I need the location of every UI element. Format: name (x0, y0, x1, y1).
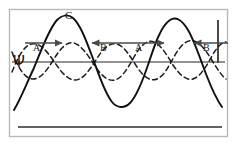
label-wave-a-second: A (135, 43, 142, 53)
wave-superposition-figure: C A B A B Ψ (0, 0, 238, 146)
wave-diagram-canvas (0, 0, 238, 146)
label-peak-c: C (65, 10, 72, 21)
label-wave-a-first: A (33, 43, 40, 53)
label-wave-b-second: B (203, 43, 210, 53)
label-wave-b-first: B (100, 43, 107, 53)
label-axis-psi: Ψ (13, 55, 25, 70)
figure-frame (10, 10, 228, 137)
